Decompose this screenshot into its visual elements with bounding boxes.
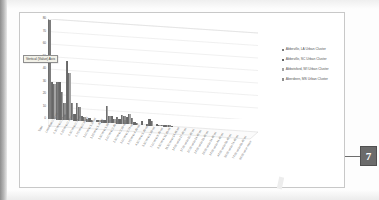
bar[interactable] [171, 126, 174, 127]
value-axis-tick: 30 [43, 80, 46, 83]
legend-item-label: Abbotsford, WI Urban Cluster [286, 68, 329, 71]
legend-item-label: Abbeville, SC Urban Cluster [286, 58, 327, 61]
value-axis-tick: 0 [44, 117, 46, 120]
category-axis-labels: TotalLess than 0.10 mi0.10 mi to 0.24 mi… [30, 131, 330, 200]
value-axis-tick: 80 [43, 17, 46, 20]
page-top-shadow [7, 0, 379, 9]
chart-bars[interactable] [48, 19, 258, 119]
value-axis-tick: 70 [43, 30, 46, 33]
legend-item[interactable]: Abbeville, SC Urban Cluster [282, 58, 362, 61]
legend-swatch-icon [282, 68, 284, 70]
callout-badge-7: 7 [360, 146, 377, 166]
legend-item[interactable]: Aberdeen, MS Urban Cluster [282, 78, 362, 81]
legend-swatch-icon [282, 49, 284, 51]
legend-item[interactable]: Abbotsford, WI Urban Cluster [282, 68, 362, 71]
value-axis-tick: 20 [43, 92, 46, 95]
legend-item[interactable]: Abbeville, LA Urban Cluster [282, 48, 362, 51]
bar[interactable] [141, 121, 144, 125]
value-axis-tick: 10 [43, 105, 46, 108]
page-left-edge-shadow [0, 0, 7, 200]
legend-item-label: Abbeville, LA Urban Cluster [286, 48, 326, 51]
vertical-value-axis-tooltip: Vertical (Value) Axis [23, 55, 58, 63]
value-axis-tick: 40 [43, 67, 46, 70]
chart-legend[interactable]: Abbeville, LA Urban ClusterAbbeville, SC… [282, 48, 362, 88]
chart-frame[interactable]: 01020304050607080 TotalLess than 0.10 mi… [19, 12, 345, 188]
legend-swatch-icon [282, 59, 284, 61]
legend-swatch-icon [282, 78, 284, 80]
value-axis-tick: 60 [43, 42, 46, 45]
legend-item-label: Aberdeen, MS Urban Cluster [286, 78, 328, 81]
